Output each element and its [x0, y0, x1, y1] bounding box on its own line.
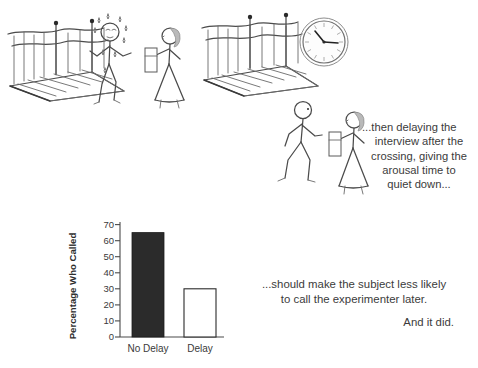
y-axis-title: Percentage Who Called: [67, 233, 78, 340]
y-tick-60: 60: [103, 235, 114, 246]
y-tick-30: 30: [103, 283, 114, 294]
anxious-man-figure: [90, 14, 131, 104]
y-tick-70: 70: [103, 219, 114, 230]
bar-chart: Percentage Who Called 70 60 50 40 30 20 …: [62, 214, 242, 364]
y-tick-40: 40: [103, 267, 114, 278]
caption-conclusion-line-1: ...should make the subject less likely: [232, 277, 476, 292]
x-tick-delay: Delay: [187, 343, 213, 354]
caption-delay-line-3: crossing, giving the: [362, 149, 476, 163]
bar-delay: [184, 289, 216, 337]
caption-delay-line-5: quiet down...: [362, 177, 476, 191]
y-tick-0: 0: [109, 331, 114, 342]
panel-anxious-man-crossing-bridge: [4, 6, 194, 116]
caption-delay-line-2: interview after the: [362, 134, 476, 148]
y-tick-20: 20: [103, 299, 114, 310]
caption-conclusion-line-2: to call the experimenter later.: [232, 292, 476, 307]
panel-calm-man-approaching-interviewer: [258, 98, 378, 200]
bridge-sketch-empty: [202, 13, 318, 96]
panel-empty-bridge-with-clock: [200, 8, 360, 108]
caption-conclusion-closing: And it did.: [232, 306, 476, 330]
y-tick-50: 50: [103, 251, 114, 262]
y-axis-ticks: [115, 225, 120, 337]
calm-man-figure: [278, 102, 322, 183]
bar-chart-svg: Percentage Who Called 70 60 50 40 30 20 …: [62, 214, 242, 364]
figure-canvas: ...then delaying the interview after the…: [0, 0, 478, 368]
caption-conclusion: ...should make the subject less likely t…: [232, 277, 476, 330]
caption-delay: ...then delaying the interview after the…: [362, 120, 476, 192]
y-tick-10: 10: [103, 315, 114, 326]
bar-no-delay: [132, 233, 164, 337]
caption-delay-line-1: ...then delaying the: [362, 120, 476, 134]
caption-delay-line-4: arousal time to: [362, 163, 476, 177]
wall-clock-icon: [300, 18, 348, 66]
interviewer-woman-figure: [145, 28, 184, 108]
x-tick-no-delay: No Delay: [127, 343, 168, 354]
bridge-sketch: [8, 19, 124, 101]
